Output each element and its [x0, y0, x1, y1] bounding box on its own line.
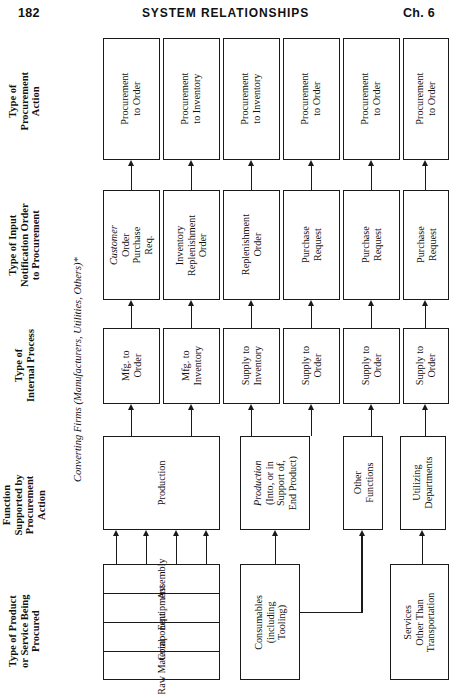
connector-line — [251, 166, 253, 190]
group-box-products: Assembly Equipment Component Raw Materia… — [103, 564, 220, 680]
running-head-title: SYSTEM RELATIONSHIPS — [0, 6, 451, 20]
arrow-head — [368, 300, 374, 306]
arrow-head — [128, 160, 134, 166]
box-label: Customer Order Purchase Req. — [108, 218, 154, 273]
connector-line — [251, 410, 253, 436]
box-input-notification-2: Inventory Replenishment Order — [163, 190, 220, 300]
arrow-head — [308, 404, 314, 410]
box-procurement-action-4: Procurement to Order — [283, 38, 340, 160]
connector-line-elbow — [300, 612, 362, 613]
arrow-head — [113, 530, 119, 536]
connector-line — [425, 410, 427, 436]
connector-line — [422, 536, 424, 564]
converting-firms-caption: Converting Firms (Manufacturers, Utiliti… — [72, 257, 83, 482]
connector-line — [131, 306, 133, 328]
connector-line — [176, 536, 178, 564]
box-internal-process-2: Mfg. to Inventory — [163, 328, 220, 404]
arrow-head — [128, 300, 134, 306]
arrow-head — [203, 530, 209, 536]
box-label: Raw Material — [156, 639, 168, 694]
box-function-production-end-product: Production (Into, or in Support of, End … — [240, 436, 310, 530]
connector-line — [311, 166, 313, 190]
box-label: Supply to Inventory — [240, 346, 263, 386]
box-label: Other Functions — [351, 463, 374, 503]
band-label-internal-process: Type of Internal Process — [13, 318, 36, 414]
box-input-notification-4: Purchase Request — [283, 190, 340, 300]
box-product-consumables: Consumables (including Tooling) — [240, 564, 300, 680]
connector-line — [311, 410, 313, 436]
box-label: Production — [156, 461, 168, 506]
connector-line — [371, 306, 373, 328]
box-procurement-action-6: Procurement to Order — [403, 38, 449, 160]
arrow-head — [128, 404, 134, 410]
arrow-head — [422, 160, 428, 166]
box-label: Procurement to Inventory — [180, 73, 203, 125]
band-label-procurement-action: Type of Procurement Action — [7, 53, 42, 149]
band-label-function-supported: Function Supported by Procurement Action — [1, 455, 47, 555]
box-label: Consumables (including Tooling) — [253, 595, 288, 650]
arrow-head — [143, 530, 149, 536]
connector-line — [116, 536, 118, 564]
arrow-head — [368, 404, 374, 410]
box-procurement-action-1: Procurement to Order — [103, 38, 160, 160]
box-label: Production (Into, or in Support of, End … — [252, 456, 298, 511]
arrow-head — [368, 160, 374, 166]
arrow-head — [188, 300, 194, 306]
running-head: 182 SYSTEM RELATIONSHIPS Ch. 6 — [0, 6, 451, 24]
box-internal-process-3: Supply to Inventory — [223, 328, 280, 404]
box-label: Purchase Request — [360, 227, 383, 264]
box-procurement-action-3: Procurement to Inventory — [223, 38, 280, 160]
product-cell-raw-material: Raw Material — [104, 652, 219, 681]
arrow-head — [188, 404, 194, 410]
box-input-notification-5: Purchase Request — [343, 190, 400, 300]
box-function-production: Production — [103, 436, 220, 530]
connector-line — [146, 536, 148, 564]
connector-line — [361, 536, 363, 613]
connector-line — [131, 166, 133, 190]
arrow-head — [248, 300, 254, 306]
box-label: Procurement to Order — [360, 73, 383, 125]
arrow-head — [248, 160, 254, 166]
arrow-head — [188, 160, 194, 166]
box-label: Procurement to Inventory — [240, 73, 263, 125]
arrow-head — [422, 300, 428, 306]
box-procurement-action-5: Procurement to Order — [343, 38, 400, 160]
box-label: Procurement to Order — [414, 73, 437, 125]
connector-line — [311, 306, 313, 328]
box-procurement-action-2: Procurement to Inventory — [163, 38, 220, 160]
box-label: Purchase Request — [300, 227, 323, 264]
connector-line — [191, 306, 193, 328]
box-product-services: Services Other Than Transportation — [390, 564, 449, 680]
arrow-head — [248, 404, 254, 410]
box-function-utilizing-departments: Utilizing Departments — [400, 436, 446, 530]
box-label: Procurement to Order — [300, 73, 323, 125]
connector-line — [371, 410, 373, 436]
arrow-head — [308, 300, 314, 306]
connector-line — [251, 306, 253, 328]
box-label: Supply to Order — [300, 346, 323, 385]
box-internal-process-6: Supply to Order — [403, 328, 449, 404]
connector-line — [191, 410, 193, 436]
band-label-product-service: Type of Product or Service Being Procure… — [7, 577, 42, 685]
arrow-head — [173, 530, 179, 536]
arrow-head — [272, 530, 278, 536]
box-label: Supply to Order — [414, 346, 437, 385]
box-label: Utilizing Departments — [411, 457, 434, 509]
arrow-head — [359, 530, 365, 536]
box-label: Procurement to Order — [120, 73, 143, 125]
connector-line — [425, 166, 427, 190]
box-label: Supply to Order — [360, 346, 383, 385]
arrow-head — [422, 404, 428, 410]
box-input-notification-6: Purchase Request — [403, 190, 449, 300]
connector-line — [191, 166, 193, 190]
arrow-head — [308, 160, 314, 166]
box-internal-process-5: Supply to Order — [343, 328, 400, 404]
box-internal-process-1: Mfg. to Order — [103, 328, 160, 404]
connector-line — [206, 536, 208, 564]
box-function-other-functions: Other Functions — [343, 436, 383, 530]
arrow-head — [419, 530, 425, 536]
connector-line — [275, 536, 277, 564]
box-input-notification-1: Customer Order Purchase Req. — [103, 190, 160, 300]
chapter-label: Ch. 6 — [403, 6, 435, 20]
